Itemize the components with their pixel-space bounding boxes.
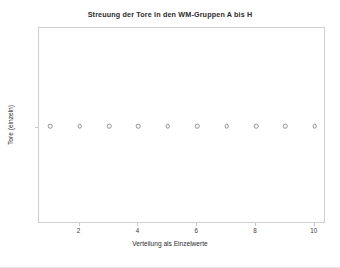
x-axis-tick bbox=[255, 223, 256, 226]
x-axis-tick-label: 10 bbox=[310, 227, 317, 234]
plot-area bbox=[38, 27, 325, 223]
chart-figure: Streuung der Tore in den WM-Gruppen A bi… bbox=[0, 0, 340, 268]
x-axis-tick-label: 8 bbox=[253, 227, 257, 234]
data-point-marker bbox=[283, 124, 288, 129]
x-axis-tick bbox=[79, 223, 80, 226]
x-axis-tick-label: 2 bbox=[77, 227, 81, 234]
y-axis-label: Tore (einzeln) bbox=[7, 105, 14, 145]
x-axis-tick bbox=[196, 223, 197, 226]
x-axis-label: Verteilung als Einzelwerte bbox=[0, 240, 340, 247]
data-markers-layer bbox=[39, 28, 324, 222]
data-point-marker bbox=[48, 124, 53, 129]
data-point-marker bbox=[313, 124, 318, 129]
data-point-marker bbox=[224, 124, 229, 129]
x-axis-tick bbox=[137, 223, 138, 226]
data-point-marker bbox=[136, 124, 141, 129]
data-point-marker bbox=[77, 124, 82, 129]
x-axis-tick bbox=[314, 223, 315, 226]
chart-title: Streuung der Tore in den WM-Gruppen A bi… bbox=[0, 10, 340, 19]
x-axis-tick-label: 6 bbox=[194, 227, 198, 234]
y-axis-tick bbox=[35, 127, 38, 128]
data-point-marker bbox=[254, 124, 259, 129]
x-axis-tick-label: 4 bbox=[136, 227, 140, 234]
data-point-marker bbox=[195, 124, 200, 129]
data-point-marker bbox=[166, 124, 171, 129]
data-point-marker bbox=[107, 124, 112, 129]
